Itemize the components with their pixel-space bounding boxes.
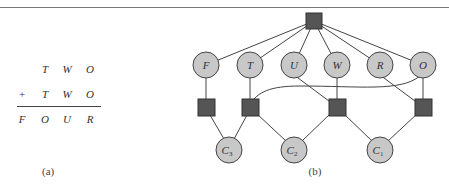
variable-label: T — [247, 59, 254, 71]
edges — [206, 21, 423, 141]
variable-label: U — [290, 59, 299, 71]
variable-label: R — [376, 59, 384, 71]
variable-label: W — [332, 59, 342, 71]
constraint-node — [415, 99, 432, 116]
constraint-node — [329, 99, 346, 116]
caption-b: (b) — [309, 165, 322, 178]
variable-label: O — [419, 59, 427, 71]
constraint-node-alldiff — [306, 13, 322, 29]
variable-label: F — [202, 59, 210, 71]
constraint-node — [242, 99, 259, 116]
constraint-node — [198, 99, 215, 116]
constraint-graph: F T U W R O C3 C2 C1 (b) — [0, 0, 449, 185]
